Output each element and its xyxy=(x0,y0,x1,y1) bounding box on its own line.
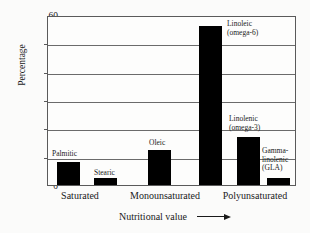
bar-oleic xyxy=(148,150,171,185)
bar-label-gla-line3: (GLA) xyxy=(262,163,282,172)
y-axis-title: Percentage xyxy=(17,25,27,105)
x-group-label-saturated: Saturated xyxy=(40,190,120,201)
bar-label-linoleic-line2: (omega-6) xyxy=(227,28,258,37)
bar-linoleic xyxy=(199,26,222,185)
plot-area: Palmitic Stearic Oleic Linoleic (omega-6… xyxy=(47,16,296,186)
bar-label-stearic: Stearic xyxy=(94,169,115,178)
bar-label-linolenic-line2: (omega-3) xyxy=(229,123,260,132)
bar-label-gamma-linolenic: Gamma- linolenic (GLA) xyxy=(262,147,304,173)
bar-label-oleic: Oleic xyxy=(149,139,165,148)
gridline-30 xyxy=(48,102,295,103)
x-group-label-monounsaturated: Monounsaturated xyxy=(110,190,220,201)
bar-gamma-linolenic xyxy=(267,178,290,185)
x-axis-title-group: Nutritional value xyxy=(60,211,290,222)
chart-figure: Percentage 60 50 40 30 20 10 0 Palmitic … xyxy=(0,0,310,233)
bar-palmitic xyxy=(57,162,80,185)
bar-label-linoleic: Linoleic (omega-6) xyxy=(227,20,283,37)
gridline-40 xyxy=(48,74,295,75)
right-arrow-icon xyxy=(197,213,231,220)
x-group-label-polyunsaturated: Polyunsaturated xyxy=(205,190,305,201)
bar-label-linolenic: Linolenic (omega-3) xyxy=(229,115,287,132)
bar-label-palmitic: Palmitic xyxy=(52,150,77,159)
bar-stearic xyxy=(94,178,117,185)
bar-linolenic xyxy=(237,137,260,185)
x-axis-title: Nutritional value xyxy=(119,211,187,222)
gridline-50 xyxy=(48,45,295,46)
